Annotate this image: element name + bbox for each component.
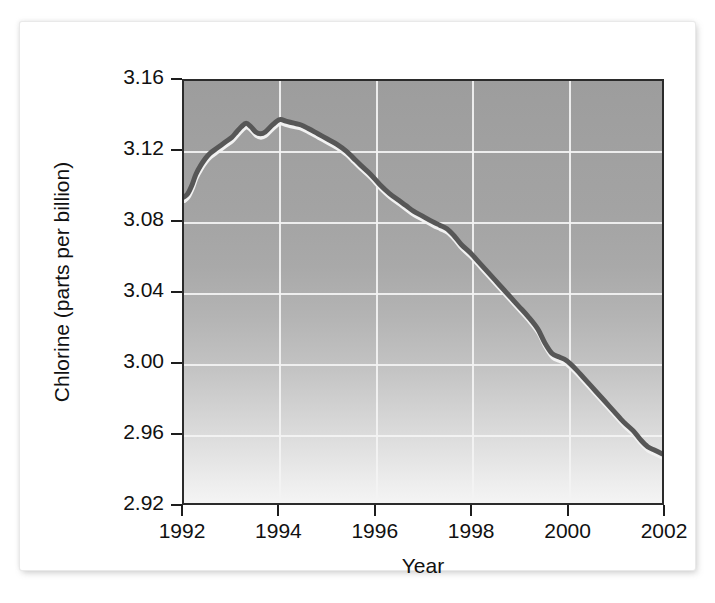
line-highlight-path: [184, 124, 662, 458]
x-tick-label: 1996: [330, 519, 420, 543]
figure-panel: 2.922.963.003.043.083.123.16 19921994199…: [20, 22, 695, 570]
plot-area: [182, 79, 664, 505]
y-tick-label: 3.16: [76, 65, 164, 89]
x-tick-mark: [470, 505, 472, 516]
x-tick-mark: [663, 505, 665, 516]
y-tick-label: 3.04: [76, 278, 164, 302]
y-tick-mark: [171, 149, 182, 151]
x-tick-mark: [181, 505, 183, 516]
x-axis-title: Year: [182, 554, 664, 578]
y-tick-mark: [171, 291, 182, 293]
y-tick-mark: [171, 220, 182, 222]
x-tick-mark: [567, 505, 569, 516]
y-tick-label: 3.12: [76, 136, 164, 160]
x-tick-mark: [374, 505, 376, 516]
y-tick-label: 3.08: [76, 207, 164, 231]
chlorine-line-series: [184, 81, 662, 503]
x-tick-mark: [277, 505, 279, 516]
y-axis-title: Chlorine (parts per billion): [50, 72, 74, 492]
y-tick-label: 2.92: [76, 491, 164, 515]
x-tick-label: 2000: [523, 519, 613, 543]
y-tick-mark: [171, 78, 182, 80]
line-main-path: [184, 120, 662, 454]
y-axis-tick-labels: 2.922.963.003.043.083.123.16: [72, 22, 164, 570]
x-tick-label: 2002: [619, 519, 709, 543]
y-tick-mark: [171, 433, 182, 435]
x-tick-label: 1998: [426, 519, 516, 543]
y-tick-mark: [171, 362, 182, 364]
x-tick-label: 1992: [137, 519, 227, 543]
x-tick-label: 1994: [233, 519, 323, 543]
y-tick-label: 2.96: [76, 420, 164, 444]
y-tick-label: 3.00: [76, 349, 164, 373]
